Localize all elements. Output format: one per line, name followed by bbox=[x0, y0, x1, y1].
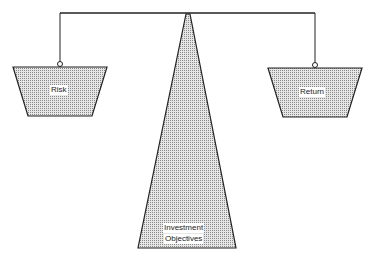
return-label: Return bbox=[299, 87, 325, 97]
right-hook bbox=[313, 63, 318, 68]
risk-label: Risk bbox=[50, 85, 68, 95]
balance-diagram bbox=[0, 0, 372, 259]
fulcrum-triangle bbox=[138, 14, 236, 248]
fulcrum-label-line1: Investment bbox=[163, 223, 204, 233]
fulcrum-label-line2: Objectives bbox=[164, 234, 203, 244]
left-hook bbox=[58, 62, 63, 67]
